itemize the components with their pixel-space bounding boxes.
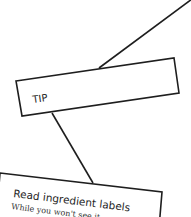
hanging-string-middle: [52, 113, 93, 183]
tip-label: TIP: [31, 92, 48, 105]
hanging-string-top: [99, 0, 191, 68]
hanging-sign-illustration: TIP Read ingredient labels While you won…: [0, 0, 191, 217]
tip-card: [16, 58, 179, 116]
